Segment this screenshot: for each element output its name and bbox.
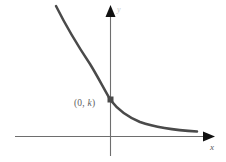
exponential-decay-figure: x y (0, k) — [0, 0, 226, 162]
plot-canvas: x y — [0, 0, 226, 162]
x-axis-arrowhead — [203, 132, 215, 142]
y-intercept-label-prefix: (0, — [74, 98, 87, 108]
exponential-curve — [56, 6, 197, 132]
y-axis-label: y — [116, 5, 121, 14]
y-intercept-label-suffix: ) — [92, 98, 95, 108]
x-axis-label: x — [209, 142, 214, 152]
y-intercept-marker — [108, 97, 114, 103]
y-intercept-label: (0, k) — [74, 98, 95, 108]
y-axis-arrowhead — [106, 5, 116, 17]
